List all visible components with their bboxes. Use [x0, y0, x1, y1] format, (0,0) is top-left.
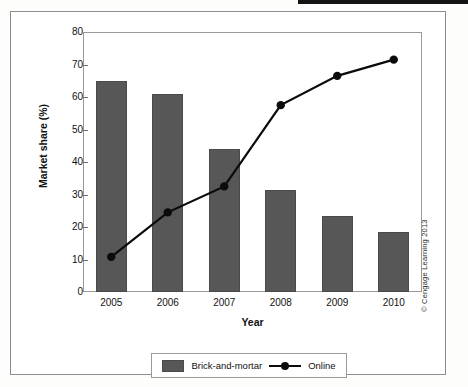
y-axis-tick-mark [83, 227, 88, 228]
chart-legend: Brick-and-mortar Online [151, 353, 347, 378]
legend-line-dot-icon [281, 362, 289, 370]
y-axis-tick-label: 0 [61, 287, 83, 297]
scan-artifact-strip [298, 0, 468, 4]
x-axis-tick-label: 2009 [315, 297, 359, 308]
bar [96, 81, 127, 292]
y-axis-tick-mark [83, 65, 88, 66]
bar [152, 94, 183, 292]
figure-outer-border: Market share (%) 01020304050607080 20052… [10, 11, 446, 375]
y-axis-tick-label: 80 [61, 27, 83, 37]
y-axis-tick-label: 30 [61, 190, 83, 200]
y-axis-tick-mark [83, 97, 88, 98]
y-axis-tick-label: 70 [61, 60, 83, 70]
x-axis-tick-label: 2007 [202, 297, 246, 308]
copyright-credit: © Cengage Learning 2013 [420, 202, 429, 312]
y-axis-tick-mark [83, 195, 88, 196]
plot-area [83, 32, 422, 292]
x-axis-title: Year [83, 316, 422, 328]
y-axis-tick-mark [83, 162, 88, 163]
x-axis-tick-label: 2010 [372, 297, 416, 308]
y-axis-tick-label: 60 [61, 92, 83, 102]
legend-label-brick-and-mortar: Brick-and-mortar [191, 360, 262, 371]
legend-label-online: Online [308, 360, 335, 371]
y-axis-tick-label: 20 [61, 222, 83, 232]
y-axis-tick-labels: 01020304050607080 [57, 32, 83, 292]
y-axis-tick-mark [83, 130, 88, 131]
x-axis-tick-label: 2005 [89, 297, 133, 308]
x-axis-tick-label: 2008 [259, 297, 303, 308]
y-axis-tick-mark [83, 260, 88, 261]
bar [209, 149, 240, 292]
bar [378, 232, 409, 292]
x-axis-tick-label: 2006 [146, 297, 190, 308]
y-axis-title: Market share (%) [37, 91, 49, 201]
legend-swatch-brick-and-mortar [162, 360, 184, 372]
bar [265, 190, 296, 292]
y-axis-tick-label: 50 [61, 125, 83, 135]
figure-container: Market share (%) 01020304050607080 20052… [0, 0, 468, 387]
bar [322, 216, 353, 292]
legend-line-marker-online [269, 361, 301, 370]
y-axis-tick-label: 10 [61, 255, 83, 265]
y-axis-tick-label: 40 [61, 157, 83, 167]
